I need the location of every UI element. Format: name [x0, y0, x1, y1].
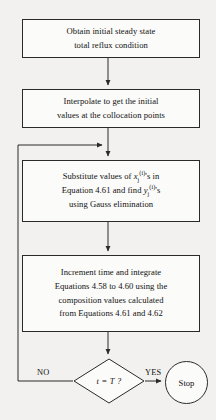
terminator-stop: Stop — [165, 361, 208, 404]
interpolate-box-line-1: Interpolate to get the initial — [63, 95, 158, 109]
substitute-line2-subscript: j — [148, 190, 150, 197]
substitute-line1-prefix: Substitute values of — [63, 171, 134, 181]
increment-box-line-2: Equations 4.58 to 4.60 using the — [55, 280, 168, 294]
substitute-line1-subscript: j — [138, 176, 140, 183]
substitute-line2-suffix: 's — [155, 185, 160, 195]
process-box-substitute: Substitute values of xj(i)'s in Equation… — [22, 160, 200, 222]
flowchart-canvas: Obtain initial steady state total reflux… — [0, 0, 216, 420]
start-box-line-2: total reflux condition — [74, 39, 148, 53]
substitute-line2-prefix: Equation 4.61 and find — [62, 185, 144, 195]
process-box-increment-time: Increment time and integrate Equations 4… — [22, 255, 200, 332]
interpolate-box-line-2: values at the collocation points — [57, 109, 165, 123]
edge-label-no: NO — [37, 368, 50, 377]
start-box-line-1: Obtain initial steady state — [67, 25, 156, 39]
stop-label: Stop — [179, 378, 195, 388]
increment-box-line-1: Increment time and integrate — [61, 266, 161, 280]
decision-diamond: t = T ? — [73, 358, 145, 404]
process-box-interpolate: Interpolate to get the initial values at… — [22, 89, 200, 128]
increment-box-line-4: from Equations 4.61 and 4.62 — [59, 307, 163, 321]
substitute-line1-suffix: 's in — [145, 171, 159, 181]
edge-label-yes: YES — [145, 368, 161, 377]
increment-box-line-3: composition values calculated — [58, 294, 163, 308]
substitute-box-line-1: Substitute values of xj(i)'s in — [63, 170, 160, 184]
process-box-obtain-steady-state: Obtain initial steady state total reflux… — [22, 19, 200, 58]
substitute-box-line-3: using Gauss elimination — [69, 198, 153, 212]
substitute-box-line-2: Equation 4.61 and find yj(i)'s — [62, 184, 161, 198]
decision-label: t = T ? — [73, 358, 145, 404]
